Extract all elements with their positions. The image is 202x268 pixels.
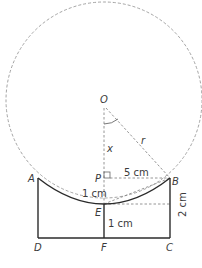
label-B: B	[172, 176, 179, 187]
label-PB-length: 5 cm	[124, 167, 149, 178]
label-E: E	[95, 207, 102, 218]
label-C: C	[166, 242, 173, 253]
label-P: P	[95, 173, 102, 184]
right-angle-marker	[104, 172, 110, 178]
angle-arc-O	[104, 119, 118, 124]
label-r: r	[141, 135, 146, 146]
label-O: O	[100, 94, 108, 105]
label-A: A	[27, 173, 35, 184]
label-F: F	[101, 242, 107, 253]
label-BC-length: 2 cm	[177, 192, 188, 217]
label-EF-length: 1 cm	[108, 218, 133, 229]
label-PE-length: 1 cm	[82, 188, 107, 199]
label-D: D	[34, 242, 42, 253]
line-EB	[104, 178, 170, 204]
geometry-diagram: O P A B E F D C x r 5 cm 1 cm 1 cm 2 cm	[0, 0, 202, 268]
label-x: x	[106, 143, 113, 154]
